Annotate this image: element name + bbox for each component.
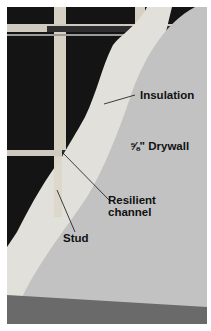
cutaway-photo <box>7 7 207 324</box>
insulation-label: Insulation <box>140 89 194 101</box>
wall-illustration <box>7 7 207 324</box>
drywall-label: ⅝" Drywall <box>130 140 189 152</box>
stud-label: Stud <box>63 232 89 244</box>
resilient-channel-label-1: Resilient <box>108 194 156 206</box>
resilient-channel-label-2: channel <box>108 206 151 218</box>
